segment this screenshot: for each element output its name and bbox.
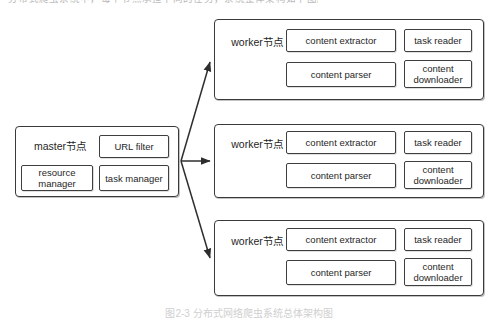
worker-node-3-label: worker节点	[224, 235, 290, 247]
worker-3-task-reader-label: task reader	[414, 234, 462, 245]
worker-1-component-task-reader[interactable]: task reader	[404, 29, 472, 52]
connector-master-to-worker-1	[181, 62, 210, 161]
worker-2-content-parser-label: content parser	[311, 170, 372, 181]
worker-2-component-content-parser[interactable]: content parser	[286, 163, 396, 188]
worker-1-component-content-parser[interactable]: content parser	[286, 62, 396, 87]
worker-1-content-parser-label: content parser	[311, 69, 372, 80]
worker-3-content-parser-label: content parser	[311, 267, 372, 278]
worker-2-task-reader-label: task reader	[414, 137, 462, 148]
worker-3-content-downloader-label: content downloader	[407, 261, 469, 283]
worker-1-content-extractor-label: content extractor	[306, 35, 377, 46]
master-node-label: master节点	[24, 140, 96, 152]
worker-3-content-extractor-label: content extractor	[306, 234, 377, 245]
figure-caption: 图2-3 分布式网络爬虫系统总体架构图	[0, 307, 498, 319]
worker-1-content-downloader-label: content downloader	[407, 63, 469, 85]
worker-2-component-content-extractor[interactable]: content extractor	[286, 131, 396, 154]
worker-2-content-extractor-label: content extractor	[306, 137, 377, 148]
component-resource-manager-label: resource manager	[24, 167, 90, 189]
worker-3-component-task-reader[interactable]: task reader	[404, 228, 472, 251]
diagram-canvas: 分布式爬虫系统中，每个节点承担不同的任务，系统整体架构如下图所示。 master…	[0, 0, 498, 319]
worker-node-2-label: worker节点	[224, 138, 290, 150]
worker-3-component-content-parser[interactable]: content parser	[286, 260, 396, 285]
worker-2-content-downloader-label: content downloader	[407, 164, 469, 186]
worker-3-component-content-downloader[interactable]: content downloader	[404, 258, 472, 286]
worker-3-component-content-extractor[interactable]: content extractor	[286, 228, 396, 251]
worker-node-1-label: worker节点	[224, 36, 290, 48]
worker-1-component-content-downloader[interactable]: content downloader	[404, 60, 472, 88]
component-task-manager[interactable]: task manager	[99, 165, 169, 191]
cropped-body-text-line: 分布式爬虫系统中，每个节点承担不同的任务，系统整体架构如下图所示。	[8, 0, 318, 4]
connector-master-to-worker-3	[181, 161, 210, 258]
worker-1-task-reader-label: task reader	[414, 35, 462, 46]
component-task-manager-label: task manager	[105, 173, 163, 184]
component-url-filter[interactable]: URL filter	[99, 135, 169, 158]
worker-1-component-content-extractor[interactable]: content extractor	[286, 29, 396, 52]
worker-2-component-task-reader[interactable]: task reader	[404, 131, 472, 154]
component-resource-manager[interactable]: resource manager	[21, 165, 93, 191]
worker-2-component-content-downloader[interactable]: content downloader	[404, 161, 472, 189]
component-url-filter-label: URL filter	[114, 141, 153, 152]
